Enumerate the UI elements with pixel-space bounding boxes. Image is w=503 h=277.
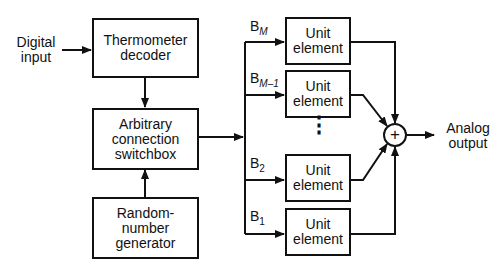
block-text: Random-: [117, 206, 175, 221]
block-text: Unit: [306, 79, 331, 94]
bit-letter: B: [250, 70, 259, 86]
bit-sub: M: [259, 26, 267, 37]
unit-element-m1: Unit element: [285, 70, 351, 118]
block-text: connection: [112, 132, 180, 147]
block-text: element: [293, 178, 343, 193]
output-line1: Analog: [446, 120, 490, 136]
block-text: Thermometer: [103, 33, 187, 48]
bit-sub: M–1: [259, 78, 278, 89]
bit-label-bm: BM: [250, 18, 268, 37]
block-text: switchbox: [115, 147, 176, 162]
bit-letter: B: [250, 18, 259, 34]
block-text: element: [293, 232, 343, 247]
bit-label-b1: B1: [250, 208, 265, 227]
bit-letter: B: [250, 155, 259, 171]
plus-icon: +: [387, 126, 403, 143]
input-line2: input: [21, 49, 51, 65]
unit-element-m: Unit element: [285, 17, 351, 65]
bit-sub: 1: [259, 216, 265, 227]
rng-block: Random- number generator: [92, 197, 199, 259]
digital-input-label: Digital input: [10, 35, 62, 65]
switchbox-block: Arbitrary connection switchbox: [92, 108, 199, 170]
connection-lines: [0, 0, 503, 277]
unit-element-1: Unit element: [285, 208, 351, 256]
block-text: Unit: [306, 217, 331, 232]
thermometer-decoder-block: Thermometer decoder: [92, 18, 199, 78]
bit-label-b2: B2: [250, 155, 265, 174]
block-text: Unit: [306, 26, 331, 41]
block-text: decoder: [120, 48, 171, 63]
block-text: number: [122, 221, 169, 236]
block-text: element: [293, 94, 343, 109]
block-text: generator: [116, 236, 176, 251]
bit-label-bm1: BM–1: [250, 70, 279, 89]
unit-element-2: Unit element: [285, 154, 351, 202]
input-line1: Digital: [17, 34, 56, 50]
block-text: Unit: [306, 163, 331, 178]
analog-output-label: Analog output: [440, 121, 496, 151]
output-line2: output: [449, 135, 488, 151]
bit-letter: B: [250, 208, 259, 224]
bit-sub: 2: [259, 163, 265, 174]
block-text: element: [293, 41, 343, 56]
block-text: Arbitrary: [119, 117, 172, 132]
ellipsis-dots: ⋮: [308, 118, 328, 132]
